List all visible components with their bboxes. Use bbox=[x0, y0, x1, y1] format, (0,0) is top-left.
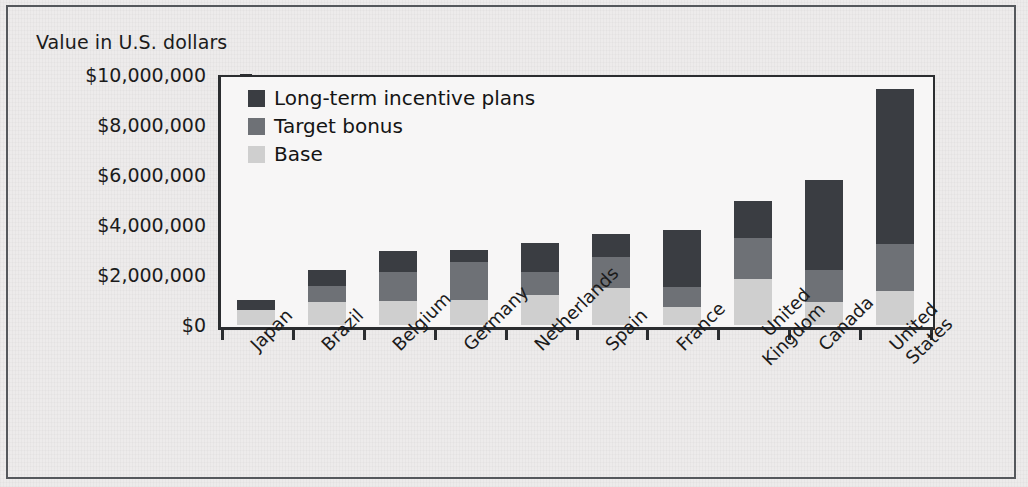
bar-segment-target-bonus[interactable] bbox=[734, 238, 772, 280]
y-axis-tick-label: $6,000,000 bbox=[97, 164, 206, 186]
x-axis-tick-mark bbox=[717, 328, 720, 340]
bar-segment-long-term-incentive-plans[interactable] bbox=[734, 201, 772, 238]
bar-group[interactable] bbox=[646, 75, 717, 325]
bar-stack[interactable] bbox=[521, 243, 559, 326]
x-axis-tick-mark bbox=[505, 328, 508, 340]
y-axis-tick-label: $0 bbox=[182, 314, 206, 336]
bar-segment-target-bonus[interactable] bbox=[379, 272, 417, 302]
chart-legend: Long-term incentive plansTarget bonusBas… bbox=[248, 86, 535, 166]
y-axis-tick-labels: $10,000,000$8,000,000$6,000,000$4,000,00… bbox=[34, 75, 206, 325]
y-axis-title: Value in U.S. dollars bbox=[36, 31, 227, 53]
bar-segment-long-term-incentive-plans[interactable] bbox=[308, 270, 346, 286]
bar-stack[interactable] bbox=[876, 89, 914, 326]
legend-item[interactable]: Target bonus bbox=[248, 114, 535, 138]
x-axis-tick-mark bbox=[434, 328, 437, 340]
bar-stack[interactable] bbox=[450, 250, 488, 325]
x-axis-tick-mark bbox=[221, 328, 224, 340]
y-axis-tick-label: $8,000,000 bbox=[97, 114, 206, 136]
bar-segment-long-term-incentive-plans[interactable] bbox=[379, 251, 417, 272]
x-axis-tick-mark bbox=[292, 328, 295, 340]
x-axis-category-labels: JapanBrazilBelgiumGermanyNetherlandsSpai… bbox=[221, 340, 930, 470]
x-axis-tick-mark bbox=[646, 328, 649, 340]
bar-segment-long-term-incentive-plans[interactable] bbox=[805, 180, 843, 270]
bar-stack[interactable] bbox=[734, 201, 772, 325]
bar-segment-long-term-incentive-plans[interactable] bbox=[663, 230, 701, 287]
legend-swatch-base bbox=[248, 146, 265, 163]
bar-group[interactable] bbox=[717, 75, 788, 325]
y-axis-tick-label: $4,000,000 bbox=[97, 214, 206, 236]
bar-group[interactable] bbox=[859, 75, 930, 325]
stacked-bar-chart-figure: Value in U.S. dollars $10,000,000$8,000,… bbox=[0, 0, 1028, 487]
bar-stack[interactable] bbox=[379, 251, 417, 325]
bar-segment-long-term-incentive-plans[interactable] bbox=[592, 234, 630, 258]
legend-item[interactable]: Long-term incentive plans bbox=[248, 86, 535, 110]
bar-stack[interactable] bbox=[663, 230, 701, 325]
bar-segment-long-term-incentive-plans[interactable] bbox=[237, 300, 275, 310]
bar-segment-long-term-incentive-plans[interactable] bbox=[876, 89, 914, 245]
bar-segment-target-bonus[interactable] bbox=[663, 287, 701, 307]
bar-segment-target-bonus[interactable] bbox=[876, 244, 914, 291]
legend-swatch-bonus bbox=[248, 118, 265, 135]
bar-segment-long-term-incentive-plans[interactable] bbox=[450, 250, 488, 262]
y-axis-tick-label: $2,000,000 bbox=[97, 264, 206, 286]
legend-item-label: Base bbox=[274, 144, 323, 164]
bar-segment-target-bonus[interactable] bbox=[308, 286, 346, 302]
legend-swatch-lti bbox=[248, 90, 265, 107]
y-axis-tick-label: $10,000,000 bbox=[85, 64, 206, 86]
legend-item-label: Long-term incentive plans bbox=[274, 88, 535, 108]
bar-segment-target-bonus[interactable] bbox=[450, 262, 488, 300]
bar-segment-long-term-incentive-plans[interactable] bbox=[521, 243, 559, 273]
x-axis-tick-mark bbox=[576, 328, 579, 340]
legend-item-label: Target bonus bbox=[274, 116, 403, 136]
x-axis-tick-mark bbox=[859, 328, 862, 340]
x-axis-tick-mark bbox=[363, 328, 366, 340]
legend-item[interactable]: Base bbox=[248, 142, 535, 166]
